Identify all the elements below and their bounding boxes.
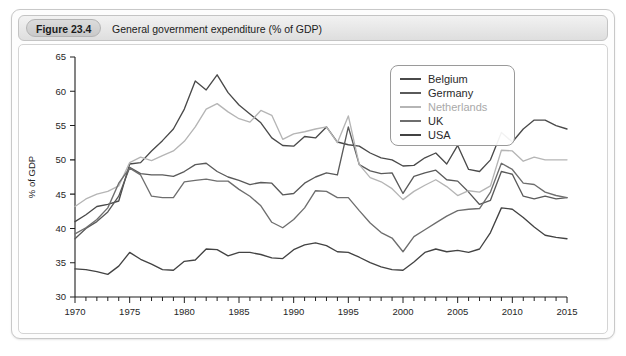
chart-plot-area: 3035404550556065197019751980198519901995… (18, 44, 608, 334)
svg-text:2015: 2015 (556, 306, 577, 317)
svg-text:1995: 1995 (338, 306, 359, 317)
svg-text:65: 65 (55, 51, 66, 62)
legend-swatch-icon (400, 106, 421, 108)
svg-text:40: 40 (55, 223, 66, 234)
svg-text:55: 55 (55, 120, 66, 131)
legend-item-uk: UK (400, 114, 514, 128)
legend-item-netherlands: Netherlands (400, 100, 514, 114)
svg-text:45: 45 (55, 189, 66, 200)
chart-legend: BelgiumGermanyNetherlandsUKUSA (390, 65, 515, 146)
svg-text:60: 60 (55, 86, 66, 97)
svg-text:% of GDP: % of GDP (26, 156, 37, 198)
figure-card: Figure 23.4 General government expenditu… (11, 9, 615, 339)
line-chart: 3035404550556065197019751980198519901995… (19, 45, 607, 333)
legend-item-germany: Germany (400, 86, 514, 100)
legend-swatch-icon (400, 120, 421, 122)
svg-text:2000: 2000 (392, 306, 413, 317)
svg-text:1980: 1980 (174, 306, 195, 317)
figure-caption: General government expenditure (% of GDP… (112, 20, 322, 38)
legend-label: USA (428, 128, 451, 142)
svg-text:1990: 1990 (283, 306, 304, 317)
legend-swatch-icon (400, 134, 421, 136)
legend-item-usa: USA (400, 128, 514, 142)
svg-text:1985: 1985 (228, 306, 249, 317)
svg-text:35: 35 (55, 257, 66, 268)
legend-swatch-icon (400, 78, 421, 80)
legend-swatch-icon (400, 92, 421, 94)
figure-header: Figure 23.4 General government expenditu… (18, 15, 608, 41)
svg-text:50: 50 (55, 154, 66, 165)
legend-item-belgium: Belgium (400, 72, 514, 86)
legend-label: Netherlands (428, 100, 487, 114)
svg-text:1970: 1970 (64, 306, 85, 317)
legend-label: Belgium (428, 72, 468, 86)
legend-label: UK (428, 114, 443, 128)
svg-text:1975: 1975 (119, 306, 140, 317)
legend-label: Germany (428, 86, 473, 100)
figure-number-badge: Figure 23.4 (26, 19, 101, 37)
svg-text:2005: 2005 (447, 306, 468, 317)
svg-text:2010: 2010 (502, 306, 523, 317)
svg-text:30: 30 (55, 291, 66, 302)
